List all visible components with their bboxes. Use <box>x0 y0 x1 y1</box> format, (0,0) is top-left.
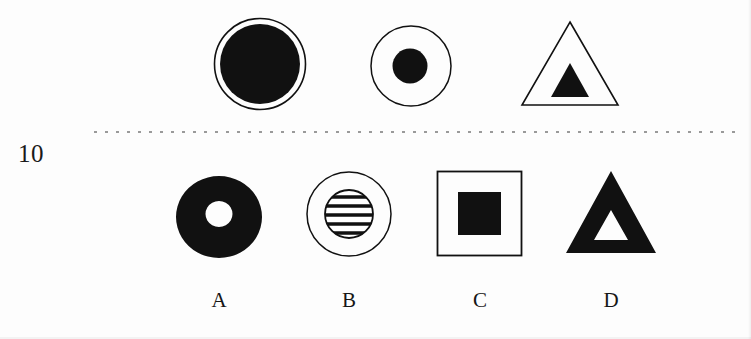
striped-circle-in-circle-icon[interactable] <box>305 170 393 258</box>
stimulus-figure-2 <box>368 23 454 109</box>
option-b-label: B <box>319 290 379 311</box>
answer-options-row: A B <box>0 140 751 339</box>
stimulus-figure-1 <box>206 8 314 120</box>
option-c-figure[interactable] <box>435 169 525 259</box>
option-a-figure[interactable] <box>172 172 266 264</box>
stimulus-row <box>0 0 751 126</box>
filled-circle-in-ring-icon <box>206 8 314 120</box>
triangle-hole-in-filled-triangle-icon[interactable] <box>563 167 659 259</box>
option-c-label: C <box>450 290 510 311</box>
filled-square-in-square-icon[interactable] <box>435 169 525 259</box>
dotted-separator <box>94 131 742 133</box>
worksheet-page: 10 <box>0 0 751 339</box>
option-d-label: D <box>581 290 641 311</box>
option-a-label: A <box>189 290 249 311</box>
option-b-figure[interactable] <box>305 170 393 258</box>
filled-triangle-in-triangle-icon <box>516 16 624 112</box>
option-d-figure[interactable] <box>563 167 659 259</box>
black-annulus-icon[interactable] <box>172 172 266 264</box>
stimulus-figure-3 <box>516 16 624 112</box>
small-filled-circle-in-circle-icon <box>368 23 454 109</box>
